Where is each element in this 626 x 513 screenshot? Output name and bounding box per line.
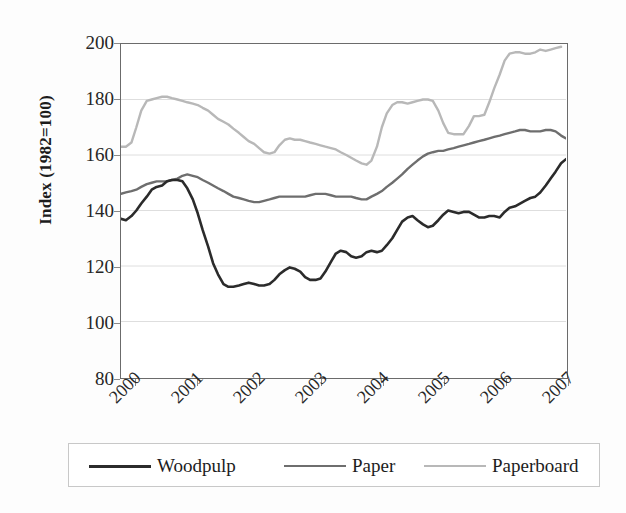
plot-area <box>120 43 568 379</box>
y-axis-title: Index (1982=100) <box>36 30 56 290</box>
series-line-paperboard <box>121 47 561 165</box>
chart-legend: WoodpulpPaperPaperboard <box>68 443 600 487</box>
series-line-woodpulp <box>121 159 566 287</box>
legend-swatch-woodpulp <box>89 465 151 468</box>
y-tick-label: 180 <box>62 89 114 108</box>
legend-item-woodpulp[interactable]: Woodpulp <box>89 444 236 488</box>
y-tick-label: 200 <box>62 33 114 52</box>
y-tick-label: 140 <box>62 201 114 220</box>
chart-figure: Index (1982=100) 20018016014012010080 20… <box>0 0 626 513</box>
legend-label: Woodpulp <box>157 455 236 477</box>
legend-label: Paper <box>352 455 395 477</box>
y-tick-label: 160 <box>62 145 114 164</box>
legend-label: Paperboard <box>492 455 579 477</box>
y-axis-tick-labels: 20018016014012010080 <box>58 0 114 513</box>
y-tick-label: 100 <box>62 313 114 332</box>
legend-item-paperboard[interactable]: Paperboard <box>424 444 579 488</box>
legend-swatch-paperboard <box>424 465 486 467</box>
y-tick-label: 120 <box>62 257 114 276</box>
y-tick-label: 80 <box>62 369 114 388</box>
legend-swatch-paper <box>284 465 346 467</box>
series-canvas <box>121 44 566 377</box>
legend-item-paper[interactable]: Paper <box>284 444 395 488</box>
